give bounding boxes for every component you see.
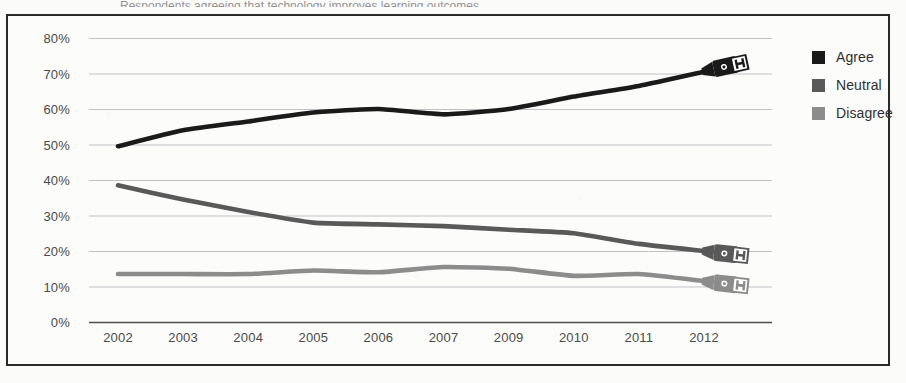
series-line [118, 267, 704, 281]
x-axis-tick-label: 2007 [429, 330, 459, 345]
legend-item-label: Agree [836, 49, 874, 65]
usb-connector-icon-disagree [701, 273, 750, 295]
series-agree [118, 54, 750, 147]
y-axis-tick-label: 10% [24, 279, 70, 294]
legend-item-agree[interactable]: Agree [812, 44, 904, 70]
x-axis-tick-label: 2012 [689, 330, 719, 345]
y-axis-tick-label: 70% [24, 66, 70, 81]
legend-item-neutral[interactable]: Neutral [812, 72, 904, 98]
x-axis-tick-label: 2010 [559, 330, 589, 345]
legend-swatch-disagree [812, 107, 825, 120]
x-axis-tick-label: 2006 [364, 330, 394, 345]
y-axis-tick-label: 60% [24, 102, 70, 117]
y-axis-tick-label: 30% [24, 208, 70, 223]
y-axis-tick-labels: 0%10%20%30%40%50%60%70%80% [24, 0, 70, 383]
x-axis-tick-label: 2009 [494, 330, 524, 345]
x-axis-tick-label: 2003 [168, 330, 198, 345]
chart-legend: AgreeNeutralDisagree [812, 44, 904, 128]
line-chart-plot [0, 0, 906, 383]
y-axis-tick-label: 20% [24, 244, 70, 259]
x-axis-tick-label: 2011 [624, 330, 653, 345]
legend-item-label: Disagree [836, 105, 893, 121]
x-axis-tick-label: 2002 [103, 330, 133, 345]
y-axis-tick-label: 50% [24, 137, 70, 152]
legend-item-disagree[interactable]: Disagree [812, 100, 904, 126]
x-axis-tick-label: 2004 [233, 330, 263, 345]
series-disagree [118, 267, 750, 295]
y-axis-tick-label: 0% [24, 315, 70, 330]
legend-swatch-agree [812, 51, 825, 64]
x-axis-tick-label: 2005 [298, 330, 328, 345]
usb-connector-icon-agree [700, 54, 750, 80]
usb-connector-icon-neutral [701, 243, 750, 265]
y-axis-tick-label: 40% [24, 173, 70, 188]
y-axis-tick-label: 80% [24, 31, 70, 46]
chart-screenshot: Respondents agreeing that technology imp… [0, 0, 906, 383]
series-line [118, 185, 704, 251]
series-neutral [118, 185, 750, 264]
series-line [118, 72, 704, 147]
legend-swatch-neutral [812, 79, 825, 92]
legend-item-label: Neutral [836, 77, 882, 93]
